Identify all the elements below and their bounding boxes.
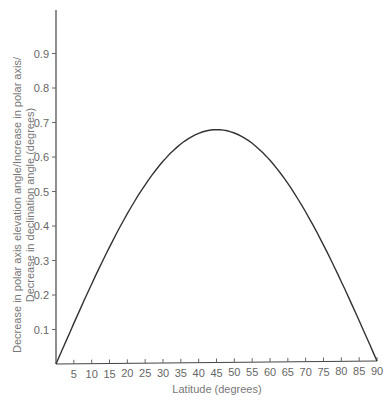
x-tick-label: 65 (282, 366, 294, 378)
y-axis-title-line-1: Decrease in polar axis elevation angle/I… (11, 56, 23, 353)
data-curve (56, 130, 377, 364)
x-tick-label: 55 (246, 366, 258, 378)
x-tick-label: 30 (157, 367, 169, 379)
x-tick-label: 75 (317, 366, 329, 378)
x-tick-label: 25 (139, 367, 151, 379)
x-tick-label: 10 (86, 368, 98, 380)
latitude-correction-chart: 0.10.20.30.40.50.60.70.80.9 510152025303… (0, 0, 386, 401)
y-tick-label: 0.9 (34, 48, 49, 60)
x-tick-label: 80 (335, 365, 347, 377)
x-tick-label: 90 (371, 365, 383, 377)
x-tick-label: 60 (264, 366, 276, 378)
x-axis: 51015202530354045505560657075808590 (56, 357, 383, 380)
x-tick-label: 70 (300, 366, 312, 378)
y-axis: 0.10.20.30.40.50.60.70.80.9 (34, 10, 56, 364)
y-tick-label: 0.8 (34, 82, 49, 94)
x-axis-title: Latitude (degrees) (172, 383, 261, 395)
x-tick-label: 15 (103, 368, 115, 380)
x-tick-label: 40 (193, 367, 205, 379)
x-tick-label: 5 (71, 368, 77, 380)
x-tick-label: 50 (228, 366, 240, 378)
x-tick-label: 85 (353, 365, 365, 377)
y-axis-title-line-2: Decrease in declination angle (degrees) (24, 108, 36, 302)
x-tick-label: 20 (121, 367, 133, 379)
y-tick-label: 0.1 (34, 324, 49, 336)
x-tick-label: 35 (175, 367, 187, 379)
x-tick-label: 45 (210, 367, 222, 379)
